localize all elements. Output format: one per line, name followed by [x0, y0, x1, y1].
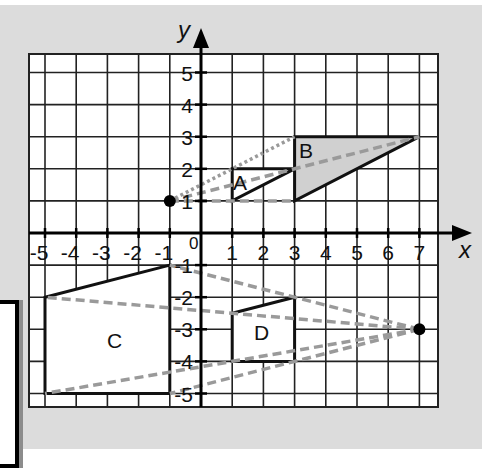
- x-tick-label: 3: [289, 241, 301, 264]
- y-axis-arrow-icon: [193, 28, 209, 48]
- centre-point: [413, 323, 425, 335]
- x-tick-label: -3: [92, 241, 111, 264]
- x-tick-label: 7: [414, 241, 426, 264]
- shape-label-D: D: [254, 321, 269, 344]
- shape-label-A: A: [233, 171, 247, 194]
- y-tick-label: 3: [181, 126, 193, 149]
- y-tick-label: -3: [174, 318, 193, 341]
- x-tick-label: 5: [351, 241, 363, 264]
- y-tick-label: 2: [181, 158, 193, 181]
- y-tick-label: 1: [181, 190, 193, 213]
- y-axis-label: y: [176, 16, 192, 43]
- x-tick-label: -4: [61, 241, 80, 264]
- y-tick-label: -1: [174, 254, 193, 277]
- y-tick-label: -5: [174, 383, 193, 406]
- shape-label-B: B: [299, 139, 313, 162]
- origin-label: 0: [189, 234, 198, 253]
- x-tick-label: 4: [320, 241, 332, 264]
- x-tick-label: 2: [258, 241, 270, 264]
- x-axis-label: x: [458, 236, 472, 263]
- x-tick-label: -1: [154, 241, 173, 264]
- y-tick-label: -2: [174, 286, 193, 309]
- x-tick-label: -2: [123, 241, 142, 264]
- x-tick-label: 1: [226, 241, 238, 264]
- y-tick-label: 5: [181, 62, 193, 85]
- centre-point: [164, 195, 176, 207]
- shape-label-C: C: [107, 329, 122, 352]
- y-tick-label: -4: [174, 350, 193, 373]
- y-tick-label: 4: [181, 94, 193, 117]
- x-tick-label: 6: [382, 241, 394, 264]
- x-tick-label: -5: [30, 241, 49, 264]
